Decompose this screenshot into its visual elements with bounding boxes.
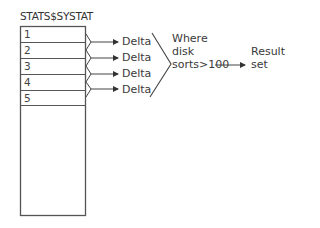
delta-label: Delta <box>122 84 151 96</box>
delta-label: Delta <box>122 36 151 48</box>
result-line-1: Result <box>251 46 285 58</box>
filter-bracket <box>150 33 171 97</box>
table-row: 2 <box>20 44 86 56</box>
table-title: STATS$SYSTAT <box>20 10 93 22</box>
delta-label: Delta <box>122 68 151 80</box>
table-row: 4 <box>20 76 86 88</box>
filter-line-3: sorts>100 <box>172 59 229 71</box>
delta-brackets <box>86 34 118 97</box>
filter-line-2: disk <box>172 46 194 58</box>
delta-label: Delta <box>122 52 151 64</box>
result-line-2: set <box>251 59 268 71</box>
table-row: 1 <box>20 28 86 40</box>
table-row: 3 <box>20 60 86 72</box>
table-row: 5 <box>20 92 86 104</box>
filter-line-1: Where <box>172 33 208 45</box>
